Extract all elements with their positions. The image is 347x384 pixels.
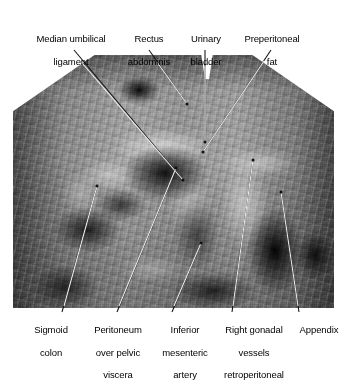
- label-line-1: Inferior: [154, 324, 216, 335]
- label-inferior-mesenteric-artery: Inferior mesenteric artery: [154, 313, 216, 384]
- label-line-3: artery: [154, 369, 216, 380]
- label-line-2: colon: [22, 347, 80, 358]
- label-rectus-abdominis: Rectus abdominis: [118, 22, 180, 78]
- label-line-1: Median umbilical: [22, 33, 120, 44]
- label-line-1: Right gonadal: [214, 324, 294, 335]
- label-line-2: fat: [234, 56, 310, 67]
- label-sigmoid-colon: Sigmoid colon: [22, 313, 80, 369]
- dissection-photograph: [13, 55, 334, 308]
- label-median-umbilical-ligament: Median umbilical ligament: [22, 22, 120, 78]
- label-line-1: Peritoneum: [82, 324, 154, 335]
- label-line-2: abdominis: [118, 56, 180, 67]
- label-line-1: Sigmoid: [22, 324, 80, 335]
- label-line-2: vessels: [214, 347, 294, 358]
- label-preperitoneal-fat: Preperitoneal fat: [234, 22, 310, 78]
- label-line-2: mesenteric: [154, 347, 216, 358]
- label-line-2: ligament: [22, 56, 120, 67]
- label-line-3: viscera: [82, 369, 154, 380]
- label-peritoneum-over-pelvic-viscera: Peritoneum over pelvic viscera: [82, 313, 154, 384]
- label-line-3: retroperitoneal: [214, 369, 294, 380]
- label-right-gonadal-vessels-retroperitoneal: Right gonadal vessels retroperitoneal: [214, 313, 294, 384]
- label-line-1: Urinary: [180, 33, 232, 44]
- label-urinary-bladder: Urinary bladder: [180, 22, 232, 78]
- label-line-1: Rectus: [118, 33, 180, 44]
- label-line-1: Appendix: [292, 324, 346, 335]
- label-line-2: bladder: [180, 56, 232, 67]
- label-line-1: Preperitoneal: [234, 33, 310, 44]
- label-line-2: over pelvic: [82, 347, 154, 358]
- label-appendix: Appendix: [292, 313, 346, 347]
- photo-grain-overlay: [13, 55, 334, 308]
